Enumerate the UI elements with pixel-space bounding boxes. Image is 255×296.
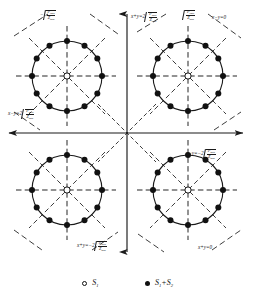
fraction-bc: PipskZipsk [98,241,107,251]
label-top-right-equation: x−y=0 [212,15,226,20]
boundary-rm-outer [214,112,241,130]
figure-canvas: −PipskZipsk x+y=2PipskZipsk PipskZipsk x… [0,0,255,296]
sqrt-symbol-rm: PipskZipsk [204,148,216,159]
fraction-tc: PipskZipsk [148,12,157,22]
diagram-svg [0,0,255,296]
fraction-tl-denominator: Zipsk [47,15,55,21]
fraction-lm-denominator: Zipsk [26,114,34,120]
sqrt-symbol-bc: PipskZipsk [95,240,107,251]
fraction-rm-denominator: Zipsk [207,154,215,160]
legend-item-s1-s2: S1+S2 [145,278,173,288]
label-bottom-center-prefix: x+y=−2 [77,242,95,248]
boundary-tc-left [90,14,118,34]
legend: S1 S1+S2 [0,278,255,288]
sqrt-symbol-lm: PipskZipsk [22,108,34,119]
filled-circle-icon [145,281,150,286]
label-top-left: −PipskZipsk [40,9,56,20]
label-left-mid: x−y=2PipskZipsk [8,108,34,119]
label-top-right-sqrt: PipskZipsk [183,9,195,20]
q2-center-open-marker [64,73,70,79]
q1-center-open-marker [185,73,191,79]
open-circle-icon [82,281,87,286]
fraction-rm: PipskZipsk [207,149,216,159]
fraction-tr-denominator: Zipsk [186,15,194,21]
q3-center-open-marker [64,187,70,193]
label-top-center: x+y=2PipskZipsk [131,11,157,22]
boundary-bc-right [138,234,164,252]
legend-item-s1: S1 [82,278,99,288]
quadrant-Q3 [16,140,116,240]
legend-item-s1-label: S1 [92,278,98,288]
label-bottom-center: x+y=−2PipskZipsk [77,240,107,251]
quadrant-Q1 [137,26,237,126]
label-top-center-prefix: x+y=2 [131,13,145,19]
sqrt-symbol-tc: PipskZipsk [145,11,157,22]
sqrt-symbol-tl: PipskZipsk [44,9,56,20]
label-right-mid-prefix: x−y=−2 [186,150,204,156]
q4-center-open-marker [185,187,191,193]
legend-item-s1-s2-label: S1+S2 [155,278,173,288]
fraction-tr: PipskZipsk [186,10,195,20]
label-bottom-right-equation: x+y=0 [198,245,212,250]
boundary-br-outer [212,230,241,250]
sqrt-symbol-tr: PipskZipsk [183,9,195,20]
label-left-mid-prefix: x−y=2 [8,110,22,116]
boundary-bl-outer [14,230,42,250]
fraction-tc-denominator: Zipsk [149,17,157,23]
fraction-tl: PipskZipsk [47,10,56,20]
fraction-lm: PipskZipsk [25,109,34,119]
fraction-bc-denominator: Zipsk [98,246,106,252]
label-right-mid: x−y=−2PipskZipsk [186,148,216,159]
